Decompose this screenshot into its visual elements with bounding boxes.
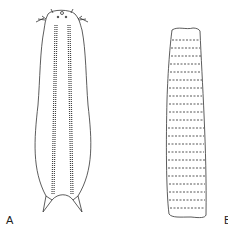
specimen-a-stripes [52,25,73,195]
specimen-a [35,9,91,212]
illustration [0,0,228,232]
panel-label-b: B [224,214,228,226]
panel-label-a: A [6,214,13,226]
specimen-b-bands [168,40,205,208]
